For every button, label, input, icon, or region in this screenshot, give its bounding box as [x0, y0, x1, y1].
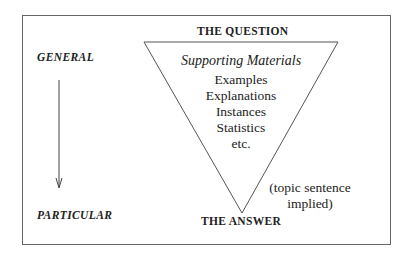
item-explanations: Explanations [170, 88, 312, 104]
general-label: GENERAL [37, 51, 94, 63]
particular-label: PARTICULAR [37, 209, 112, 221]
item-instances: Instances [170, 104, 312, 120]
item-etc: etc. [170, 136, 312, 152]
note-line-1: (topic sentence [265, 180, 355, 196]
item-examples: Examples [170, 72, 312, 88]
item-statistics: Statistics [170, 120, 312, 136]
note-line-2: implied) [265, 196, 355, 212]
triangle-content: Supporting Materials Examples Explanatio… [170, 53, 312, 152]
supporting-materials-heading: Supporting Materials [170, 53, 312, 69]
bottom-label: THE ANSWER [201, 215, 281, 227]
top-label: THE QUESTION [197, 25, 288, 37]
topic-sentence-note: (topic sentence implied) [265, 180, 355, 212]
